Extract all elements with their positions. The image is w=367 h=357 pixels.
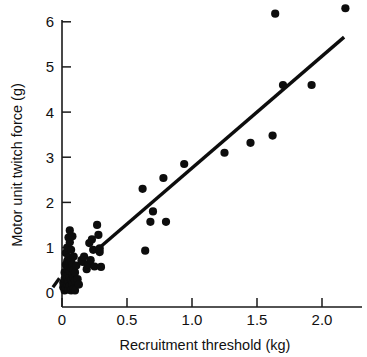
data-point — [180, 160, 188, 168]
data-point — [341, 4, 349, 12]
x-tick-label: 2.0 — [312, 311, 333, 328]
x-tick-label: 0.5 — [117, 311, 138, 328]
data-point — [97, 263, 105, 271]
data-point — [70, 252, 78, 260]
data-point — [149, 207, 157, 215]
data-point — [269, 131, 277, 139]
regression-line-stub — [53, 278, 60, 287]
y-tick-label: 6 — [46, 13, 54, 30]
data-point — [139, 185, 147, 193]
data-point — [94, 231, 102, 239]
data-point — [68, 232, 76, 240]
data-point — [162, 218, 170, 226]
data-point — [159, 174, 167, 182]
data-point — [220, 149, 228, 157]
data-point — [75, 280, 83, 288]
x-tick-label: 1.5 — [247, 311, 268, 328]
chart-figure: 6 5 4 3 2 1 0 Motor unit twitch force (g… — [0, 0, 367, 357]
data-point — [246, 139, 254, 147]
data-point — [93, 221, 101, 229]
y-tick-label: 5 — [46, 58, 54, 75]
y-tick-labels: 6 5 4 3 2 1 0 — [46, 13, 54, 301]
regression-line — [100, 37, 344, 247]
x-axis-title: Recruitment threshold (kg) — [120, 337, 291, 353]
data-point — [271, 10, 279, 18]
y-tick-label: 4 — [46, 104, 54, 121]
data-point — [146, 218, 154, 226]
y-tick-label: 3 — [46, 149, 54, 166]
y-tick-label: 2 — [46, 194, 54, 211]
data-point — [308, 81, 316, 89]
y-tick-label: 1 — [46, 239, 54, 256]
data-point — [141, 247, 149, 255]
scatter-plot: 6 5 4 3 2 1 0 Motor unit twitch force (g… — [0, 0, 367, 357]
data-points — [59, 4, 349, 294]
regression-line-stub-segment — [53, 278, 60, 287]
x-tick-label: 0 — [58, 311, 66, 328]
x-tick-label: 1.0 — [182, 311, 203, 328]
y-axis-title: Motor unit twitch force (g) — [9, 83, 25, 247]
x-tick-marks — [62, 298, 322, 307]
x-tick-labels: 0 0.5 1.0 1.5 2.0 — [58, 311, 333, 328]
x-axis: 0 0.5 1.0 1.5 2.0 Recruitment threshold … — [58, 298, 362, 353]
y-axis: 6 5 4 3 2 1 0 Motor unit twitch force (g… — [9, 13, 71, 307]
regression-line-segment — [100, 37, 344, 247]
